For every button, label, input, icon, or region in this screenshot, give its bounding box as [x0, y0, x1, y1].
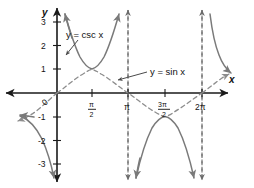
y-tick-label-minus3: -3: [38, 159, 46, 169]
y-tick-label-minus1: -1: [38, 112, 46, 122]
y-tick-label-3: 3: [41, 17, 46, 27]
sin-curve-right: [202, 74, 229, 93]
csc-sin-graph-figure: y x 3 2 1 -1 -2 -3 0 π 2 π 3π 2 2π: [0, 0, 254, 188]
csc-curve-label: y = csc x: [66, 29, 103, 40]
pi-over-2-denominator: 2: [90, 111, 94, 118]
pointer-group: [66, 40, 147, 80]
csc-branch-0-pi: [65, 14, 119, 69]
x-tick-label-2pi: 2π: [195, 102, 206, 112]
sin-curve-group: [18, 70, 229, 122]
y-tick-label-2: 2: [41, 41, 46, 51]
sin-label-pointer: [118, 72, 147, 80]
y-tick-label-minus2: -2: [38, 136, 46, 146]
graph-canvas: y x 3 2 1 -1 -2 -3 0 π 2 π 3π 2 2π: [0, 0, 254, 188]
three-pi-over-2-denominator: 2: [162, 111, 166, 118]
sin-curve-label: y = sin x: [150, 66, 185, 77]
x-tick-label-pi-over-2: π 2: [88, 101, 96, 118]
x-tick-label-pi: π: [124, 102, 130, 112]
csc-branch-left-down: [20, 116, 54, 178]
pi-over-2-numerator: π: [89, 101, 94, 108]
csc-curve-group: [20, 14, 231, 178]
label-group: y x 3 2 1 -1 -2 -3 0 π 2 π 3π 2 2π: [38, 7, 235, 169]
origin-label: 0: [40, 97, 50, 108]
y-tick-label-1: 1: [41, 64, 46, 74]
csc-branch-pi-2pi: [136, 117, 194, 179]
three-pi-over-2-numerator: 3π: [158, 101, 167, 108]
csc-branch-right: [210, 14, 231, 73]
x-axis-label: x: [228, 74, 235, 85]
csc-branch-pi-2pi-left-arrow: [136, 158, 140, 178]
axes-group: [6, 8, 228, 182]
